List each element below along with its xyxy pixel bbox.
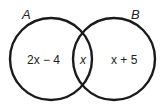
region-b-only: x + 5 bbox=[111, 53, 138, 67]
set-b-label: B bbox=[131, 7, 140, 22]
venn-diagram: A B 2x − 4 x x + 5 bbox=[0, 0, 163, 106]
set-a-label: A bbox=[21, 7, 31, 22]
region-a-only: 2x − 4 bbox=[27, 53, 60, 67]
region-intersection: x bbox=[79, 53, 87, 67]
